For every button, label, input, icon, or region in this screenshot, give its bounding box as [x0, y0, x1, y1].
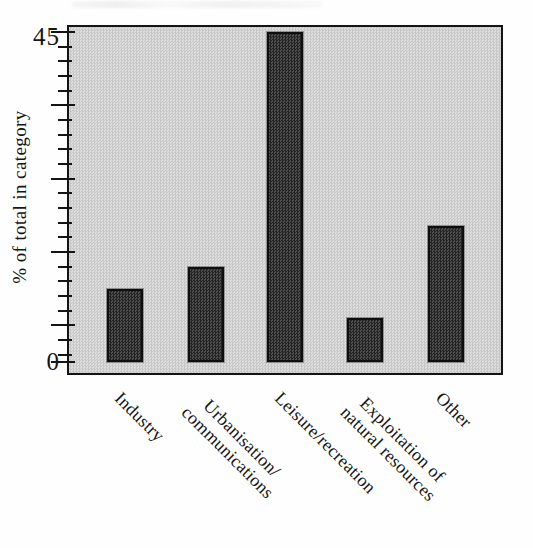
y-tick-41-minor	[58, 60, 72, 62]
y-tick-19-minor	[58, 222, 72, 224]
y-tick-17-minor	[58, 236, 72, 238]
y-axis-title: % of total in category	[9, 110, 31, 283]
y-tick-0-major	[51, 361, 75, 363]
y-tick-45-major	[51, 31, 75, 33]
bar-other	[428, 226, 464, 362]
y-tick-27-minor	[58, 163, 72, 165]
y-tick-29-minor	[58, 148, 72, 150]
y-tick-label-45: 45	[14, 24, 60, 49]
y-tick-13-minor	[58, 266, 72, 268]
bar-chart-figure: % of total in category 45 0 IndustryUrba…	[0, 0, 533, 548]
y-tick-33-minor	[58, 119, 72, 121]
x-label-other: Other	[432, 388, 476, 432]
y-tick-3-minor	[58, 339, 72, 341]
y-tick-11-minor	[58, 280, 72, 282]
y-tick-9-minor	[58, 295, 72, 297]
bar-leisure-recreation	[267, 32, 303, 362]
y-tick-23-minor	[58, 192, 72, 194]
y-tick-43-minor	[58, 46, 72, 48]
bar-industry	[107, 289, 143, 362]
x-label-industry: Industry	[111, 388, 169, 446]
y-tick-39-minor	[58, 75, 72, 77]
scan-artifact	[72, 1, 322, 8]
y-tick-21-minor	[58, 207, 72, 209]
y-tick-15-major	[51, 251, 75, 253]
bar-exploitation-of-natural-resources	[347, 318, 383, 362]
y-tick-31-minor	[58, 134, 72, 136]
y-tick-7-minor	[58, 310, 72, 312]
bar-urbanisation-communications	[188, 267, 224, 362]
y-tick-37-minor	[58, 90, 72, 92]
y-tick-1-minor	[58, 354, 72, 356]
y-tick-25-major	[51, 178, 75, 180]
y-tick-35-major	[51, 104, 75, 106]
y-tick-5-major	[51, 324, 75, 326]
